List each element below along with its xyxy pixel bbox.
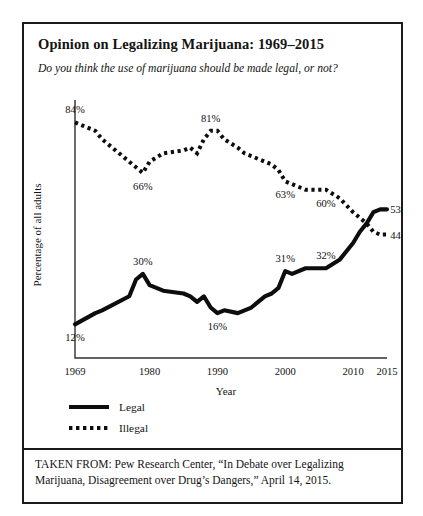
data-point-label: 32%	[316, 250, 336, 261]
line-chart: 196919801990200020102015YearPercentage o…	[24, 86, 401, 396]
legend-item-illegal: Illegal	[68, 417, 288, 438]
y-axis-title: Percentage of all adults	[31, 184, 43, 287]
legend-swatch-solid	[68, 401, 110, 413]
legend-swatch-dotted	[68, 422, 110, 434]
x-tick-label: 1969	[64, 366, 85, 377]
page-title: Opinion on Legalizing Marijuana: 1969–20…	[38, 36, 324, 53]
figure-frame: Opinion on Legalizing Marijuana: 1969–20…	[22, 22, 403, 504]
legend-item-legal: Legal	[68, 396, 288, 417]
series-line-illegal	[75, 122, 387, 234]
data-point-label: 30%	[133, 256, 153, 267]
data-point-label: 60%	[316, 198, 336, 209]
data-point-label: 31%	[276, 253, 296, 264]
legend-label-legal: Legal	[119, 401, 145, 413]
data-point-label: 84%	[65, 104, 85, 115]
data-point-label: 81%	[201, 113, 221, 124]
data-point-label: 66%	[133, 181, 153, 192]
chart-axes	[75, 100, 387, 358]
series-line-legal	[75, 209, 387, 324]
source-divider	[24, 448, 401, 450]
x-tick-label: 2000	[275, 366, 296, 377]
x-axis-title: Year	[216, 385, 237, 396]
data-point-label: 16%	[208, 321, 228, 332]
data-point-label: 12%	[65, 332, 85, 343]
figure-subtitle: Do you think the use of marijuana should…	[38, 62, 338, 75]
x-tick-label: 1990	[207, 366, 228, 377]
x-tick-label: 2010	[342, 366, 363, 377]
data-point-label: 53%	[390, 204, 401, 215]
chart-canvas: 196919801990200020102015YearPercentage o…	[24, 86, 401, 396]
data-point-label: 44%	[390, 230, 401, 241]
chart-legend: Legal Illegal	[68, 396, 288, 438]
x-tick-label: 2015	[376, 366, 397, 377]
data-point-label: 63%	[276, 189, 296, 200]
legend-label-illegal: Illegal	[119, 422, 148, 434]
x-tick-label: 1980	[139, 366, 160, 377]
source-attribution: TAKEN FROM: Pew Research Center, “In Deb…	[35, 456, 390, 489]
